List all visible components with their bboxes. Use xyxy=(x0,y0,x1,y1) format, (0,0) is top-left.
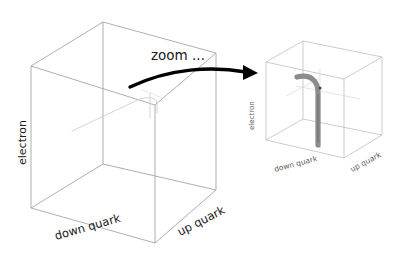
zoom-label: zoom ... xyxy=(151,47,205,63)
right-cube-label-electron: electron xyxy=(248,101,256,130)
zoom-figure: electron down quark up quark zoom ... xyxy=(0,0,396,255)
left-cube-label-electron: electron xyxy=(16,120,29,165)
right-cube-trajectory-vertex xyxy=(318,86,321,89)
